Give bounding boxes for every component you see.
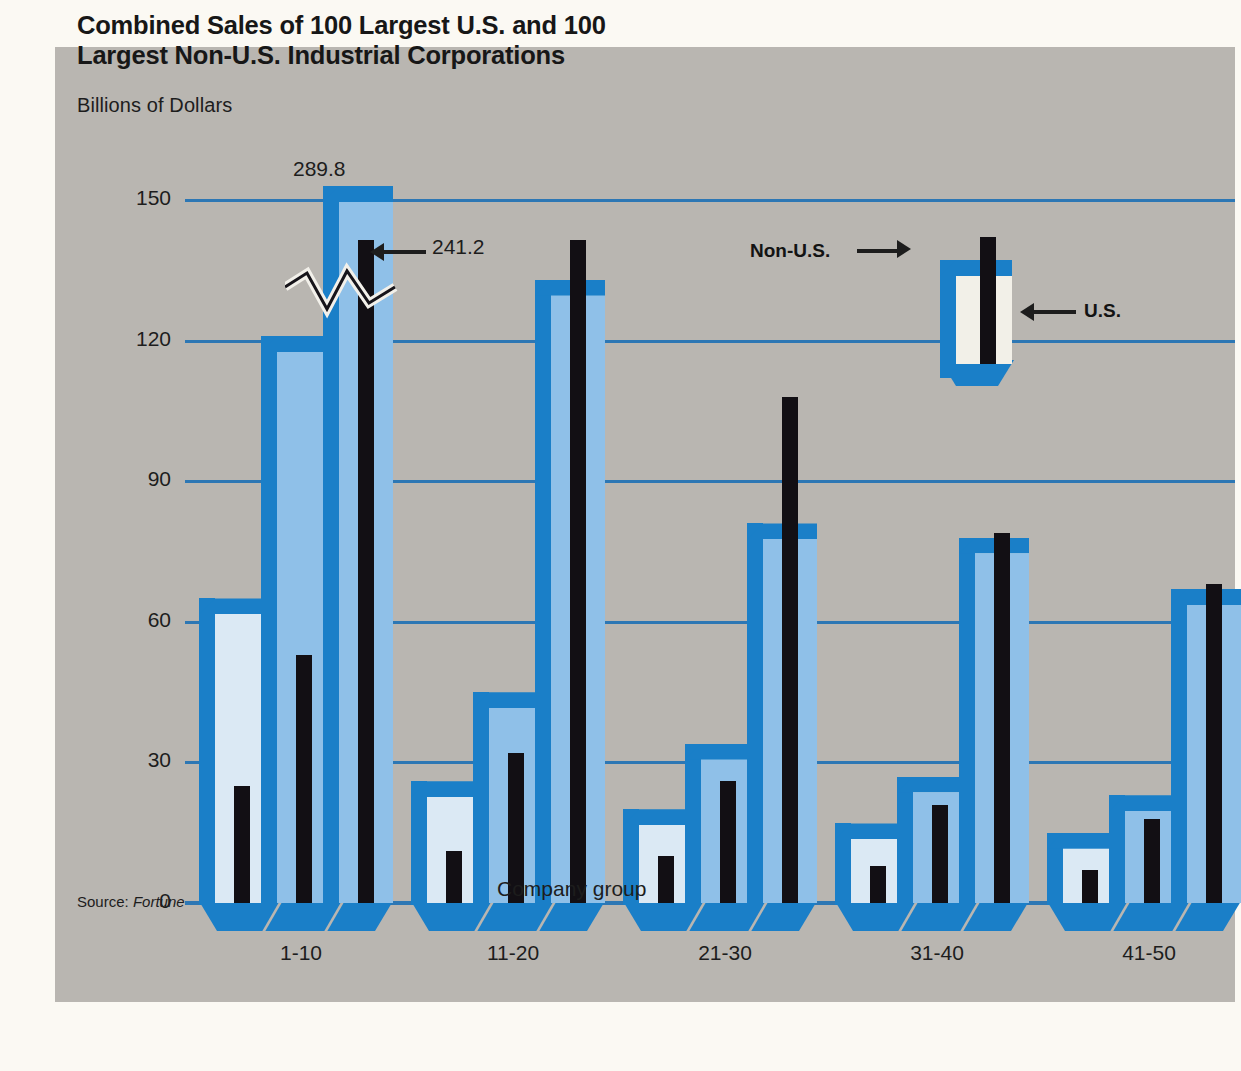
legend-arrow-line-nonus [857,249,899,253]
legend-arrow-head-us [1020,303,1034,321]
chart-title: Combined Sales of 100 Largest U.S. and 1… [77,10,797,70]
source-note: Source: Fortune [77,893,185,910]
legend-arrow-head-nonus [897,240,911,258]
chart-panel: 03060901201501-1011-2021-3031-4041-50289… [55,47,1235,1002]
chart-title-line1: Combined Sales of 100 Largest U.S. and 1… [77,10,797,40]
legend-label-us: U.S. [1084,300,1121,322]
source-name: Fortune [133,893,185,910]
y-axis-label: Billions of Dollars [77,94,232,117]
legend-arrow-line-us [1032,310,1076,314]
source-prefix: Source: [77,893,133,910]
plot-area: 03060901201501-1011-2021-3031-4041-50289… [55,47,1235,1002]
x-axis-label: Company group [497,877,646,901]
legend: Non-U.S.U.S. [55,47,1235,1002]
legend-label-nonus: Non-U.S. [750,240,830,262]
chart-title-line2: Largest Non-U.S. Industrial Corporations [77,40,797,70]
legend-nonus-swatch [980,237,996,364]
legend-swatch-side-3d [940,260,956,378]
